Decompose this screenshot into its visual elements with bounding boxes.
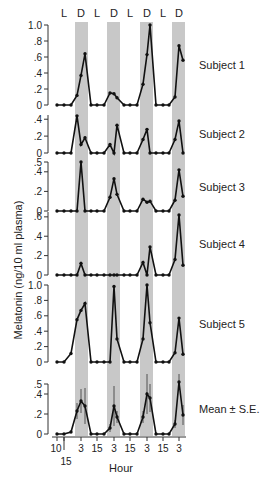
data-point bbox=[135, 273, 138, 276]
data-point bbox=[154, 360, 157, 363]
data-point bbox=[122, 209, 125, 212]
panel-4: 0.2.4.6Subject 4 bbox=[34, 211, 245, 280]
panel-label: Subject 3 bbox=[199, 181, 245, 193]
data-point bbox=[55, 360, 58, 363]
data-point bbox=[79, 399, 82, 402]
data-point bbox=[83, 209, 86, 212]
data-point bbox=[161, 273, 164, 276]
data-point bbox=[173, 422, 176, 425]
ld-label: D bbox=[175, 7, 183, 19]
data-point bbox=[154, 209, 157, 212]
data-point bbox=[181, 59, 184, 62]
data-point bbox=[122, 103, 125, 106]
data-point bbox=[115, 96, 118, 99]
data-point bbox=[89, 360, 92, 363]
data-point bbox=[55, 432, 58, 435]
y-tick-label: .2 bbox=[34, 250, 43, 261]
data-point bbox=[177, 44, 180, 47]
data-point bbox=[62, 432, 65, 435]
data-point bbox=[177, 213, 180, 216]
y-tick-label: .6 bbox=[34, 52, 43, 63]
x-tick-label: 3 bbox=[111, 443, 117, 454]
data-point bbox=[141, 83, 144, 86]
data-point bbox=[181, 151, 184, 154]
y-tick-label: .4 bbox=[34, 166, 43, 177]
data-point bbox=[83, 52, 86, 55]
data-point bbox=[128, 151, 131, 154]
data-point bbox=[102, 432, 105, 435]
data-point bbox=[128, 273, 131, 276]
panel-1: 0.2.4.6.81.0Subject 1 bbox=[28, 20, 245, 111]
data-point bbox=[177, 316, 180, 319]
ld-label: L bbox=[127, 7, 133, 19]
y-tick-label: .4 bbox=[34, 326, 43, 337]
y-tick-label: .5 bbox=[34, 157, 43, 168]
data-point bbox=[95, 103, 98, 106]
data-point bbox=[102, 151, 105, 154]
data-point bbox=[95, 151, 98, 154]
data-point bbox=[135, 209, 138, 212]
y-tick-label: 1.0 bbox=[28, 20, 42, 31]
y-tick-label: .2 bbox=[34, 409, 43, 420]
data-point bbox=[108, 91, 111, 94]
ld-label: D bbox=[110, 7, 118, 19]
data-point bbox=[115, 193, 118, 196]
data-point bbox=[141, 415, 144, 418]
data-point bbox=[177, 119, 180, 122]
panel-label: Subject 4 bbox=[199, 238, 245, 250]
data-point bbox=[75, 318, 78, 321]
data-point bbox=[177, 168, 180, 171]
data-point bbox=[75, 409, 78, 412]
panel-2: 0.2.4Subject 2 bbox=[34, 114, 245, 159]
data-point bbox=[62, 273, 65, 276]
data-point bbox=[75, 209, 78, 212]
data-point bbox=[128, 103, 131, 106]
data-point bbox=[89, 432, 92, 435]
data-point bbox=[75, 273, 78, 276]
data-point bbox=[145, 200, 148, 203]
data-point bbox=[112, 177, 115, 180]
data-point bbox=[135, 360, 138, 363]
x-tick-label: 15 bbox=[91, 443, 103, 454]
data-point bbox=[154, 432, 157, 435]
data-point bbox=[55, 209, 58, 212]
data-point bbox=[141, 198, 144, 201]
data-point bbox=[173, 258, 176, 261]
data-point bbox=[69, 273, 72, 276]
ld-label: D bbox=[143, 7, 151, 19]
data-point bbox=[128, 360, 131, 363]
y-tick-label: .4 bbox=[34, 68, 43, 79]
data-point bbox=[145, 392, 148, 395]
y-tick-label: .5 bbox=[34, 379, 43, 390]
melatonin-chart: LDLDLDLD 0.2.4.6.81.0Subject 10.2.4Subje… bbox=[0, 0, 263, 480]
data-point bbox=[69, 352, 72, 355]
data-point bbox=[95, 209, 98, 212]
x-tick-label: 15 bbox=[124, 443, 136, 454]
data-point bbox=[115, 337, 118, 340]
data-point bbox=[108, 426, 111, 429]
ld-label: L bbox=[61, 7, 67, 19]
dark-band bbox=[107, 22, 120, 436]
y-tick-label: .2 bbox=[34, 186, 43, 197]
data-point bbox=[173, 351, 176, 354]
data-point bbox=[83, 404, 86, 407]
data-point bbox=[181, 413, 184, 416]
data-point bbox=[122, 151, 125, 154]
y-tick-label: .4 bbox=[34, 114, 43, 125]
data-point bbox=[55, 103, 58, 106]
panel-label: Subject 2 bbox=[199, 128, 245, 140]
data-point bbox=[83, 136, 86, 139]
data-point bbox=[167, 209, 170, 212]
data-point bbox=[148, 23, 151, 26]
data-point bbox=[173, 95, 176, 98]
data-point bbox=[173, 138, 176, 141]
dark-period-bands bbox=[75, 22, 185, 436]
x-tick-label: 15 bbox=[157, 443, 169, 454]
data-point bbox=[89, 103, 92, 106]
x-tick-label: 3 bbox=[176, 443, 182, 454]
data-point bbox=[62, 360, 65, 363]
data-point bbox=[161, 103, 164, 106]
y-tick-label: .2 bbox=[34, 84, 43, 95]
data-point bbox=[112, 273, 115, 276]
panel-label: Mean ± S.E. bbox=[199, 403, 259, 415]
